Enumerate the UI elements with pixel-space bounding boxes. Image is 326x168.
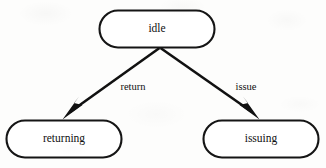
edge-return: return [63,48,160,120]
edge-issue-arrowhead-icon [240,97,260,120]
edge-return-line [70,48,160,112]
figure-container: return issue idle returning issuing Fig.… [0,0,326,168]
state-transition-diagram: return issue idle returning issuing [0,0,326,168]
figure-caption-text: Fig. 3.3 State transition diagram for C [91,167,236,168]
node-idle-label: idle [148,22,165,34]
node-returning[interactable]: returning [7,121,122,158]
node-idle[interactable]: idle [100,11,215,48]
edge-return-label: return [120,81,146,92]
edge-return-arrowhead-icon [63,97,83,120]
edge-issue-line [161,48,253,112]
node-returning-label: returning [43,132,85,145]
edge-issue-label: issue [236,81,257,92]
figure-caption: Fig. 3.3 State transition diagram for C [0,162,326,168]
node-issuing[interactable]: issuing [204,121,319,158]
edge-issue: issue [161,48,260,120]
node-issuing-label: issuing [245,132,278,145]
